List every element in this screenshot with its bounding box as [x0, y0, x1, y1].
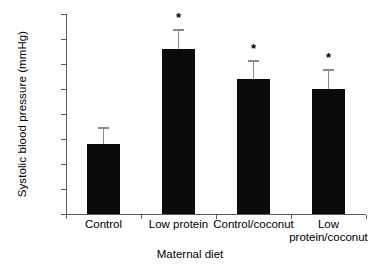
y-axis-tick	[61, 164, 66, 165]
significance-asterisk: *	[247, 42, 261, 55]
y-axis-tick	[61, 114, 66, 115]
bar-chart-figure: Systolic blood pressure (mmHg) 110115120…	[0, 0, 380, 267]
plot-area: ***	[66, 14, 366, 214]
error-bar-stem	[178, 29, 180, 49]
y-axis-line	[66, 14, 67, 215]
significance-asterisk: *	[172, 11, 186, 24]
error-bar-cap	[98, 127, 109, 129]
y-axis-tick	[61, 64, 66, 65]
significance-asterisk: *	[322, 51, 336, 64]
y-axis-tick	[61, 39, 66, 40]
bar	[312, 89, 345, 214]
bar	[162, 49, 195, 214]
x-axis-title: Maternal diet	[0, 248, 380, 260]
bar	[237, 79, 270, 214]
y-axis-tick	[61, 139, 66, 140]
x-axis-category-label: Low protein/coconut	[274, 218, 380, 244]
error-bar-stem	[103, 127, 105, 144]
error-bar-cap	[173, 29, 184, 31]
error-bar-cap	[323, 69, 334, 71]
y-axis-tick	[61, 89, 66, 90]
error-bar-cap	[248, 60, 259, 62]
error-bar-stem	[253, 60, 255, 79]
y-axis-title: Systolic blood pressure (mmHg)	[16, 9, 28, 219]
y-axis-tick	[61, 14, 66, 15]
error-bar-stem	[328, 69, 330, 89]
y-axis-tick	[61, 189, 66, 190]
bar	[87, 144, 120, 214]
